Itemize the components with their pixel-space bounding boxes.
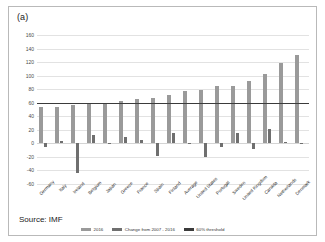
bar-group [277, 35, 293, 184]
legend-item: 2016 [81, 227, 103, 232]
x-axis-label-cell: Greece [117, 184, 133, 224]
bar [252, 143, 256, 148]
legend-label: 2016 [94, 227, 104, 232]
bar [236, 133, 240, 143]
bar [135, 99, 139, 143]
bar [183, 91, 187, 143]
bar [87, 103, 91, 144]
bar-group [165, 35, 181, 184]
bar [156, 143, 160, 156]
y-axis-tick-label: 0 [31, 140, 34, 146]
bar [44, 143, 48, 146]
y-axis-tick-label: 60 [28, 100, 34, 106]
bar-group [101, 35, 117, 184]
x-axis-label-cell: Average [181, 184, 197, 224]
y-axis-tick-label: 100 [26, 73, 34, 79]
bar [215, 86, 219, 144]
x-axis-label-cell: Netherlands [277, 184, 293, 224]
bar-group [197, 35, 213, 184]
bar [140, 140, 144, 143]
bar [188, 143, 192, 144]
y-axis-tick-label: 80 [28, 86, 34, 92]
x-axis-label-cell: Spain [149, 184, 165, 224]
x-axis-label-cell: Japan [101, 184, 117, 224]
x-axis-label-cell: Canada [261, 184, 277, 224]
y-axis-tick-label: 40 [28, 113, 34, 119]
x-axis-label-cell: Finland [165, 184, 181, 224]
x-axis-label-cell: United States [197, 184, 213, 224]
y-axis-tick-label: -20 [27, 154, 34, 160]
y-axis-tick-label: -40 [27, 167, 34, 173]
x-axis-labels: GermanyItalyIrelandBelgiumJapanGreeceFra… [37, 184, 309, 224]
bar [76, 143, 80, 173]
y-axis-tick-label: 160 [26, 32, 34, 38]
chart-figure: (a) 160140120100806040200-20-40-60 Germa… [8, 6, 317, 236]
panel-label: (a) [17, 12, 28, 22]
bar [220, 143, 224, 147]
bar-group [245, 35, 261, 184]
legend-swatch [81, 228, 91, 231]
x-axis-label-cell: Sweden [229, 184, 245, 224]
legend-item: Change from 2007 - 2016 [112, 227, 175, 232]
bar-group [85, 35, 101, 184]
bar [151, 98, 155, 143]
y-axis-tick-label: 20 [28, 127, 34, 133]
legend-swatch [112, 228, 122, 231]
bar [108, 143, 112, 144]
bar [124, 137, 128, 144]
bar [284, 142, 288, 143]
bar [247, 81, 251, 143]
bar [295, 55, 299, 144]
bar [60, 141, 64, 143]
bar-group [261, 35, 277, 184]
bar-group [229, 35, 245, 184]
legend-label: Change from 2007 - 2016 [125, 227, 175, 232]
threshold-line [37, 103, 309, 105]
bar-group [37, 35, 53, 184]
bar-group [213, 35, 229, 184]
bar-group [133, 35, 149, 184]
plot-area: 160140120100806040200-20-40-60 [37, 35, 309, 184]
bar-group [117, 35, 133, 184]
x-axis-label-cell: Belgium [85, 184, 101, 224]
x-axis-label-cell: United Kingdom [245, 184, 261, 224]
legend-item: 60% threshold [184, 227, 225, 232]
bar [268, 129, 272, 143]
bar [103, 103, 107, 144]
bar-group [293, 35, 309, 184]
bar-group [53, 35, 69, 184]
bar [231, 86, 235, 144]
bar [300, 143, 304, 144]
y-axis-tick-label: 120 [26, 59, 34, 65]
x-axis-label-cell: France [133, 184, 149, 224]
bar [263, 74, 267, 143]
x-axis-label-cell: Ireland [69, 184, 85, 224]
bar [172, 133, 176, 144]
bar [92, 135, 96, 144]
y-axis-tick-label: -60 [27, 181, 34, 187]
bar [39, 107, 43, 143]
y-axis-tick-label: 140 [26, 46, 34, 52]
bar-series-container [37, 35, 309, 184]
bar-group [149, 35, 165, 184]
bar-group [69, 35, 85, 184]
bar-group [181, 35, 197, 184]
source-note: Source: IMF [19, 215, 63, 224]
bar [55, 107, 59, 144]
x-axis-label-cell: Portugal [213, 184, 229, 224]
x-axis-tick-label: Italy [58, 183, 68, 193]
x-axis-label-cell: Denmark [293, 184, 309, 224]
chart-legend: 2016Change from 2007 - 201660% threshold [81, 227, 316, 232]
bar [199, 90, 203, 144]
bar [204, 143, 208, 157]
bar [119, 101, 123, 144]
legend-swatch [184, 228, 194, 231]
legend-label: 60% threshold [196, 227, 224, 232]
bar [71, 105, 75, 143]
